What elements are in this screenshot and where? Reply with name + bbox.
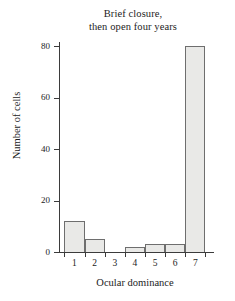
x-axis-line	[59, 252, 214, 253]
x-tick-mark	[105, 252, 106, 257]
bar-series	[60, 46, 212, 252]
x-tick-mark	[165, 252, 166, 257]
x-tick-mark	[64, 252, 65, 257]
x-tick-label: 5	[145, 258, 165, 268]
bar	[165, 244, 185, 252]
chart-title-line-2: then open four years	[38, 21, 228, 34]
x-tick-mark	[85, 252, 86, 257]
y-tick-mark	[54, 252, 60, 253]
bar	[185, 46, 205, 252]
y-tick-label: 20	[22, 196, 50, 205]
chart-title-line-1: Brief closure,	[38, 8, 228, 21]
x-tick-mark	[205, 252, 206, 257]
histogram-figure: Brief closure, then open four years 0204…	[0, 0, 235, 301]
x-tick-mark	[125, 252, 126, 257]
x-tick-label: 4	[125, 258, 145, 268]
y-axis-label: Number of cells	[11, 66, 22, 186]
x-axis-label: Ocular dominance	[45, 277, 225, 288]
y-tick-label: 80	[22, 42, 50, 51]
chart-title: Brief closure, then open four years	[38, 8, 228, 33]
x-tick-label: 7	[185, 258, 205, 268]
bar	[64, 221, 84, 252]
x-tick-mark	[185, 252, 186, 257]
x-tick-mark	[145, 252, 146, 257]
x-tick-label: 6	[165, 258, 185, 268]
x-tick-label: 2	[85, 258, 105, 268]
y-tick-label: 60	[22, 93, 50, 102]
bar	[85, 239, 105, 252]
y-tick-label: 0	[22, 248, 50, 257]
bar	[145, 244, 165, 252]
y-tick-label: 40	[22, 145, 50, 154]
x-tick-label: 1	[64, 258, 84, 268]
x-tick-label: 3	[105, 258, 125, 268]
bar	[125, 247, 145, 252]
